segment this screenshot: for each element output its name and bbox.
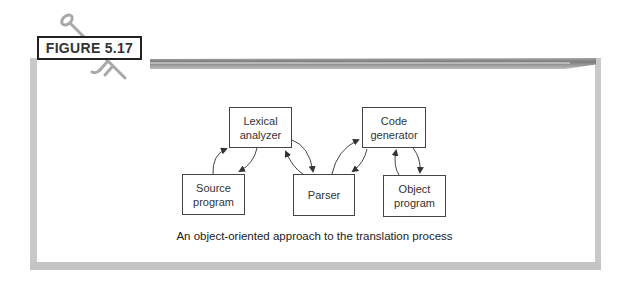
arrow-lexical-to-parser	[292, 140, 313, 171]
brush-stroke-streak	[150, 62, 570, 64]
node-label: Parser	[308, 188, 340, 202]
node-label: analyzer	[240, 128, 282, 142]
node-label: program	[193, 195, 234, 209]
figure-caption: An object-oriented approach to the trans…	[0, 230, 629, 242]
arrow-parser-to-codegen	[332, 140, 358, 174]
node-label: generator	[370, 128, 417, 142]
node-lexical-analyzer: Lexical analyzer	[229, 107, 292, 148]
node-source-program: Source program	[182, 174, 245, 215]
arrow-codegen-to-object	[413, 148, 420, 172]
figure-frame-bottom	[30, 262, 601, 270]
arrow-lexical-to-source	[240, 148, 257, 171]
arrow-source-to-lexical	[213, 149, 226, 174]
arrow-parser-to-lexical	[286, 152, 303, 174]
node-parser: Parser	[293, 174, 355, 216]
node-object-program: Object program	[383, 175, 446, 217]
node-label: Code	[381, 114, 407, 128]
arrow-codegen-to-parser	[353, 149, 367, 171]
node-label: program	[394, 196, 435, 210]
node-label: Object	[399, 182, 431, 196]
arrow-object-to-codegen	[395, 151, 399, 175]
node-label: Lexical	[243, 114, 277, 128]
node-code-generator: Code generator	[362, 107, 426, 148]
node-label: Source	[196, 181, 231, 195]
figure-label: FIGURE 5.17	[37, 36, 142, 60]
